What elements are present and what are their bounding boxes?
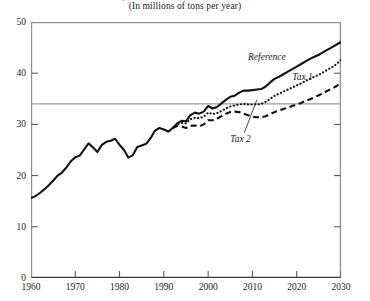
x-tick-label: 2000 bbox=[188, 282, 228, 292]
y-tick-label: 50 bbox=[0, 17, 26, 27]
series-label-tax-2: Tax 2 bbox=[230, 134, 251, 144]
y-tick-label: 20 bbox=[0, 171, 26, 181]
emissions-line-chart: Projected Emissions of Carbon Dioxide (I… bbox=[0, 0, 370, 301]
x-tick-label: 1990 bbox=[144, 282, 184, 292]
chart-subtitle: (In millions of tons per year) bbox=[0, 1, 370, 12]
plot-svg bbox=[31, 22, 341, 278]
plot-area bbox=[31, 22, 341, 278]
x-tick-label: 1980 bbox=[100, 282, 140, 292]
y-tick-label: 30 bbox=[0, 119, 26, 129]
series-label-reference: Reference bbox=[248, 52, 286, 62]
x-tick-label: 1970 bbox=[55, 282, 95, 292]
x-tick-label: 2010 bbox=[232, 282, 272, 292]
x-tick-label: 2030 bbox=[321, 282, 361, 292]
series-label-tax-1: Tax 1 bbox=[292, 72, 313, 82]
x-tick-label: 2020 bbox=[277, 282, 317, 292]
plot-frame bbox=[32, 23, 341, 278]
y-tick-label: 10 bbox=[0, 222, 26, 232]
x-tick-label: 1960 bbox=[11, 282, 51, 292]
series-lines bbox=[31, 42, 341, 198]
y-tick-label: 40 bbox=[0, 68, 26, 78]
